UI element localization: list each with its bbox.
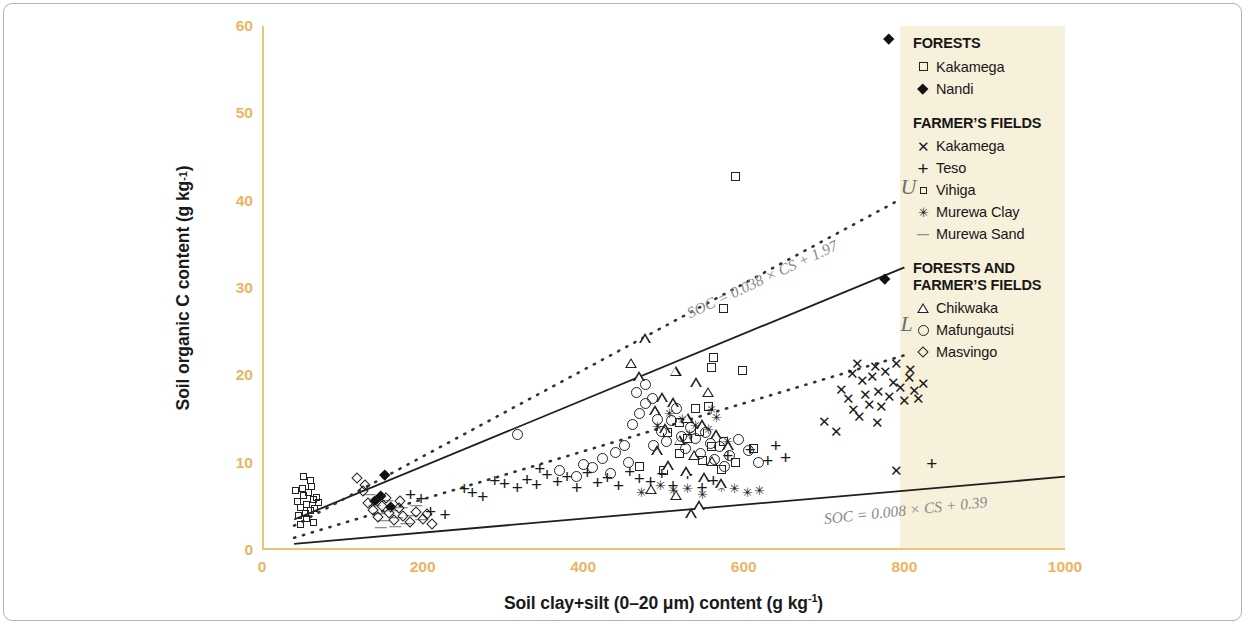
data-point: +	[475, 489, 491, 505]
data-point	[671, 403, 682, 414]
data-point: ✕	[903, 362, 918, 377]
data-point: +	[437, 506, 453, 522]
data-point	[605, 468, 616, 479]
data-point	[676, 431, 687, 442]
plot-area: 010203040506002004006008001000 ✕✕✕✕✕✕✕✕✕…	[262, 26, 1065, 550]
data-point: ✕	[850, 356, 865, 371]
scatter-points: ✕✕✕✕✕✕✕✕✕✕✕✕✕✕✕✕✕✕✕✕✕✕✕✕✕✕✕✕++++++++++++…	[262, 26, 1065, 550]
data-point: +	[532, 461, 548, 477]
data-point	[300, 473, 307, 480]
data-point	[623, 457, 634, 468]
data-point	[311, 505, 318, 512]
data-point	[707, 363, 716, 372]
data-point	[305, 489, 312, 496]
data-point: ✕	[916, 376, 931, 391]
data-point	[297, 521, 304, 528]
data-point	[743, 445, 754, 456]
upper-boundary-letter: U	[900, 174, 916, 200]
lower-boundary-letter: L	[900, 311, 912, 337]
y-tick-label: 20	[236, 366, 253, 384]
data-point	[512, 429, 523, 440]
x-tick-label: 600	[731, 558, 757, 576]
data-point	[597, 453, 608, 464]
x-tick-label: 0	[258, 558, 267, 576]
data-point	[627, 419, 638, 430]
data-point	[380, 470, 391, 481]
data-point: ✳	[709, 410, 723, 424]
data-point	[670, 366, 682, 376]
data-point	[709, 353, 718, 362]
data-point	[738, 366, 747, 375]
data-point	[554, 465, 565, 476]
x-tick-label: 1000	[1048, 558, 1082, 576]
x-axis-title: Soil clay+silt (0–20 μm) content (g kg-1…	[262, 592, 1065, 614]
data-point	[680, 466, 692, 476]
data-point	[639, 333, 651, 343]
data-point: ✕	[889, 463, 904, 478]
data-point: +	[924, 456, 940, 472]
data-point	[634, 408, 645, 419]
data-point: ✳	[695, 487, 709, 501]
data-point	[625, 358, 637, 368]
x-tick-label: 400	[570, 558, 596, 576]
data-point	[308, 483, 315, 490]
data-point: ✕	[846, 402, 861, 417]
data-point: ✳	[681, 482, 695, 496]
data-point	[883, 34, 894, 45]
data-point	[690, 377, 702, 387]
data-point: ✕	[829, 424, 844, 439]
data-point	[648, 440, 659, 451]
data-point	[662, 460, 674, 470]
x-tick-label: 800	[891, 558, 917, 576]
data-point	[702, 387, 714, 397]
data-point	[879, 273, 890, 284]
data-point	[351, 472, 362, 483]
x-tick-label: 200	[410, 558, 436, 576]
data-point	[724, 450, 735, 461]
data-point	[647, 393, 658, 404]
data-point	[292, 487, 299, 494]
y-tick-label: 0	[244, 541, 253, 559]
y-tick-label: 30	[236, 279, 253, 297]
data-point	[645, 484, 657, 494]
data-point	[315, 499, 322, 506]
data-point: ✳	[753, 484, 767, 498]
data-point: ✕	[911, 391, 926, 406]
data-point	[652, 414, 663, 425]
y-tick-label: 10	[236, 454, 253, 472]
data-point	[685, 508, 697, 518]
y-tick-label: 50	[236, 104, 253, 122]
data-point	[715, 478, 727, 488]
data-point	[719, 461, 730, 472]
y-axis-title: Soil organic C content (g kg-1)	[168, 26, 198, 550]
y-tick-label: 60	[236, 17, 253, 35]
data-point	[631, 387, 642, 398]
data-point	[731, 172, 740, 181]
data-point: —	[375, 522, 387, 532]
data-point: ✕	[870, 415, 885, 430]
data-point	[310, 519, 317, 526]
figure-root: FORESTSKakamegaNandiFARMER’S FIELDS✕Kaka…	[0, 0, 1249, 628]
data-point	[698, 472, 710, 482]
data-point	[619, 440, 630, 451]
data-point	[661, 436, 672, 447]
data-point	[307, 477, 314, 484]
y-tick-label: 40	[236, 192, 253, 210]
data-point	[670, 490, 682, 500]
data-point	[691, 404, 700, 413]
data-point	[640, 379, 651, 390]
data-point: +	[768, 437, 784, 453]
data-point	[753, 457, 764, 468]
